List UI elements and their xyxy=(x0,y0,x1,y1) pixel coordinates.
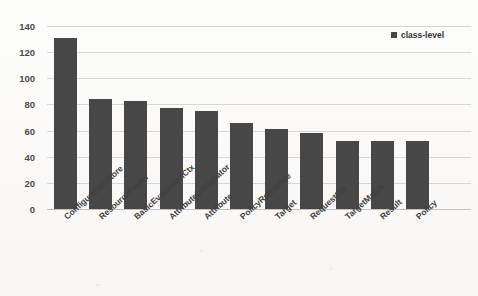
bar xyxy=(300,133,323,209)
paper-speck xyxy=(330,268,332,270)
y-axis-tick-label: 140 xyxy=(0,21,35,32)
y-axis-tick-label: 40 xyxy=(0,151,35,162)
paper-speck xyxy=(200,250,203,252)
gridline xyxy=(47,26,471,27)
gridline xyxy=(47,78,471,79)
y-axis-tick-label: 120 xyxy=(0,47,35,58)
paper-speck xyxy=(96,284,100,286)
y-axis-tick-label: 20 xyxy=(0,177,35,188)
y-axis-tick-label: 0 xyxy=(0,204,35,215)
bar xyxy=(406,141,429,209)
y-axis-tick-label: 80 xyxy=(0,99,35,110)
y-axis-tick-label: 60 xyxy=(0,125,35,136)
bar xyxy=(54,38,77,209)
bar-chart: class-level 020406080100120140 Configura… xyxy=(0,0,478,296)
gridline xyxy=(47,52,471,53)
y-axis-tick-label: 100 xyxy=(0,73,35,84)
